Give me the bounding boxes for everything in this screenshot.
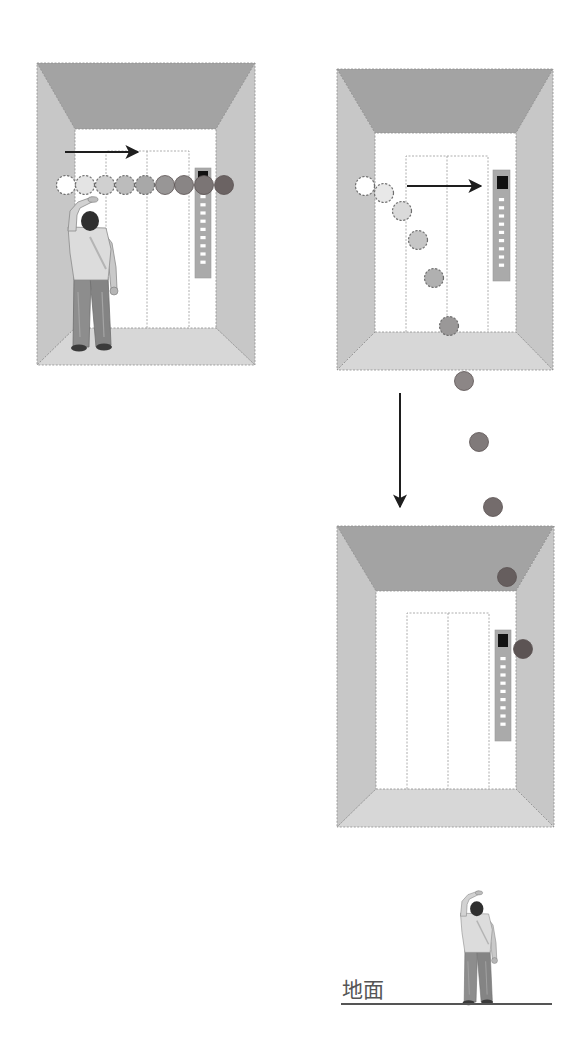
floor-button [499, 255, 504, 258]
floor-button [500, 714, 505, 717]
floor-button [200, 236, 205, 239]
floor-display [497, 176, 508, 189]
ball-position-2 [76, 176, 95, 195]
floor-button [200, 195, 205, 198]
floor-button [500, 723, 505, 726]
floor-button [500, 706, 505, 709]
ball-position-7 [455, 372, 474, 391]
floor-button [200, 244, 205, 247]
button-panel [493, 170, 510, 281]
ball-position-11 [514, 640, 533, 659]
ball-position-3 [96, 176, 115, 195]
floor-display [498, 634, 508, 647]
floor-button [499, 198, 504, 201]
button-panel [495, 630, 511, 741]
elevator-projectile-diagram: 地面 [0, 0, 588, 1040]
floor-button [499, 223, 504, 226]
floor-button [499, 231, 504, 234]
person-on-ground [460, 891, 497, 1006]
ball-position-1 [356, 177, 375, 196]
ball-position-4 [409, 231, 428, 250]
ball-position-9 [484, 498, 503, 517]
floor-button [499, 214, 504, 217]
ball-position-5 [425, 269, 444, 288]
floor-button [499, 264, 504, 267]
floor-button [500, 665, 505, 668]
ball-position-6 [156, 176, 175, 195]
floor-button [200, 228, 205, 231]
ground-label: 地面 [342, 978, 384, 1002]
ball-trajectory-horizontal [57, 176, 234, 195]
ball-position-4 [116, 176, 135, 195]
ball-position-8 [470, 433, 489, 452]
ball-position-3 [393, 202, 412, 221]
ground: 地面 [341, 978, 552, 1004]
floor-button [500, 682, 505, 685]
floor-button [500, 673, 505, 676]
ball-position-2 [375, 184, 394, 203]
ball-position-6 [440, 317, 459, 336]
floor-button [200, 220, 205, 223]
floor-button [500, 690, 505, 693]
floor-button [499, 239, 504, 242]
floor [337, 332, 553, 370]
ball-position-8 [195, 176, 214, 195]
ball-position-7 [175, 176, 194, 195]
elevator-right-bottom [337, 526, 554, 827]
floor-button [200, 211, 205, 214]
ball-position-5 [136, 176, 155, 195]
ball-position-1 [57, 176, 76, 195]
ball-position-10 [498, 568, 517, 587]
floor-button [499, 206, 504, 209]
floor-button [500, 698, 505, 701]
floor-button [200, 261, 205, 264]
floor-button [500, 657, 505, 660]
floor-button [200, 252, 205, 255]
floor-button [200, 203, 205, 206]
floor-button [499, 247, 504, 250]
ball-position-9 [215, 176, 234, 195]
